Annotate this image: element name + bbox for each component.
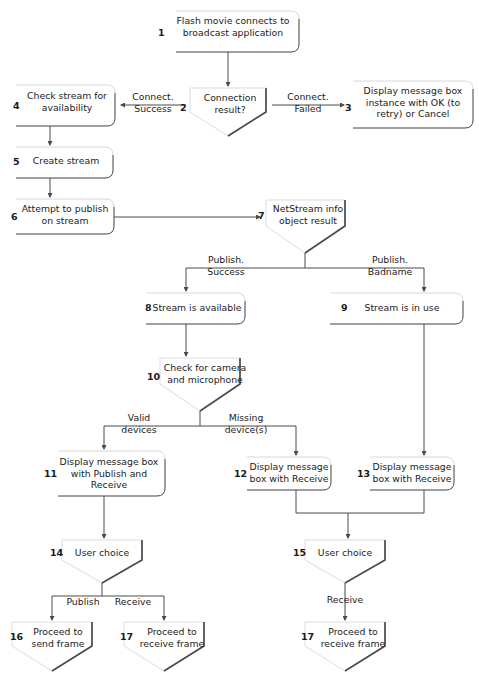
node-14-label: User choice [66,547,138,559]
node-11-label: Display message box with Publish and Rec… [56,456,162,491]
edge-label-receive-choice: Receive [110,596,156,608]
node-3-number: 3 [345,103,352,113]
edge-label-connect-success: Connect. Success [122,91,184,114]
node-5-label: Create stream [22,155,110,167]
node-13-label: Display message box with Receive [371,461,453,484]
node-5-number: 5 [13,157,20,167]
node-6-label: Attempt to publish on stream [19,203,111,226]
flowchart-diagram: 1 Flash movie connects to broadcast appl… [0,0,479,693]
node-17-left-label: Proceed to receive frame [134,626,210,649]
node-15-label: User choice [309,547,381,559]
node-1-number: 1 [158,28,165,38]
edge-label-publish-choice: Publish [60,596,106,608]
node-8-label: Stream is available [152,302,242,314]
node-17-right-number: 17 [301,632,314,642]
node-9-number: 9 [341,303,348,313]
node-3-label: Display message box instance with OK (to… [355,85,471,120]
edge-label-valid-devices: Valid devices [110,412,168,435]
node-10-number: 10 [147,372,160,382]
node-13-number: 13 [357,469,370,479]
edge-label-receive-only: Receive [322,594,368,606]
edge-label-publish-badname: Publish. Badname [355,254,425,277]
node-10-label: Check for camera and microphone [163,362,247,385]
node-7-number: 7 [258,211,265,221]
node-17-left-number: 17 [120,632,133,642]
node-14-number: 14 [50,548,63,558]
edge-label-connect-failed: Connect. Failed [277,91,339,114]
node-2-label: Connection result? [192,92,268,115]
node-4-label: Check stream for availability [22,90,112,113]
node-17-right-label: Proceed to receive frame [315,626,391,649]
node-4-number: 4 [13,101,20,111]
node-1-label: Flash movie connects to broadcast applic… [172,15,294,38]
edge-label-missing-devices: Missing device(s) [212,412,280,435]
node-16-label: Proceed to send frame [22,626,94,649]
node-12-number: 12 [234,469,247,479]
node-7-label: NetStream info object result [268,203,348,226]
node-9-label: Stream is in use [352,302,452,314]
node-15-number: 15 [293,548,306,558]
node-12-label: Display message box with Receive [248,461,330,484]
edge-label-publish-success: Publish. Success [194,254,258,277]
node-8-number: 8 [145,303,152,313]
node-6-number: 6 [11,212,18,222]
